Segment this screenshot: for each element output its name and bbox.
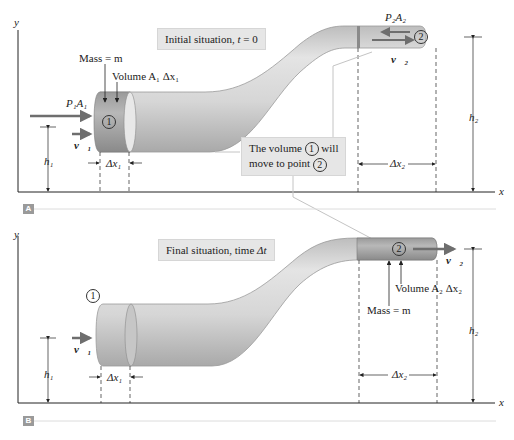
- dx1-label-b: Δx₁: [107, 371, 122, 384]
- h1-label-a: h₁: [44, 155, 53, 168]
- velocity-v1-label-a: v⃗₁: [74, 139, 91, 152]
- volume-label-a: Volume A₁ Δx₁: [112, 70, 179, 83]
- element-end-face: [124, 92, 136, 152]
- dx2-label-a: Δx₂: [390, 157, 405, 170]
- h2-label-a: h₂: [469, 111, 478, 124]
- mass-label-a: Mass = m: [79, 52, 122, 65]
- y-axis-label-a: y: [14, 16, 19, 29]
- callout-leader-up: [333, 52, 372, 137]
- initial-situation-callout: Initial situation, t = 0: [157, 28, 266, 50]
- x-axis-label-a: x: [499, 185, 504, 198]
- panel-b: [18, 236, 496, 421]
- dx2-label-b: Δx₂: [392, 368, 407, 381]
- mass-label-b: Mass = m: [367, 304, 410, 317]
- element-boundary: [125, 304, 137, 366]
- final-situation-callout: Final situation, time Δt: [158, 239, 275, 261]
- volume-move-callout: The volume 1 will move to point 2: [241, 137, 346, 176]
- callout-leader-down: [293, 173, 380, 243]
- velocity-v2-label-a: v⃗₂: [391, 53, 408, 66]
- velocity-v2-label-b: v⃗₂: [446, 254, 463, 267]
- point-1-marker-a: 1: [102, 115, 116, 129]
- velocity-v1-label-b: v⃗₁: [74, 343, 91, 356]
- force-p1a1-label: P₁A₁: [66, 97, 87, 110]
- diagram-canvas: [0, 0, 514, 440]
- point-2-marker-a: 2: [414, 30, 428, 44]
- panel-tag-a: A: [23, 204, 34, 214]
- x-axis-label-b: x: [499, 396, 504, 409]
- force-p2a2-label: P₂A₂: [385, 11, 406, 24]
- dx1-label-a: Δx₁: [106, 157, 121, 170]
- y-axis-label-b: y: [14, 228, 19, 241]
- h2-label-b: h₂: [469, 324, 478, 337]
- panel-tag-b: B: [23, 416, 34, 426]
- outlet-band: [357, 26, 360, 48]
- volume-label-b: Volume A₂ Δx₂: [395, 282, 462, 295]
- h1-label-b: h₁: [44, 368, 53, 381]
- point-1-marker-b: 1: [86, 289, 100, 303]
- point-2-marker-b: 2: [392, 242, 406, 256]
